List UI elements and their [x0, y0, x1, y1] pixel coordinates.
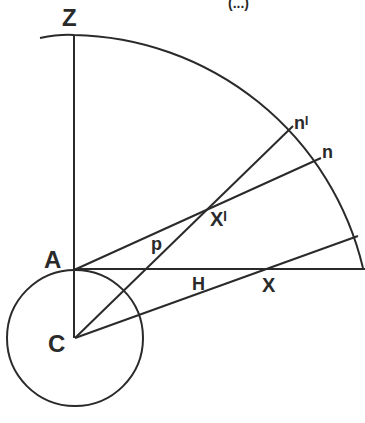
label-H: H: [192, 274, 205, 294]
label-n: n: [322, 142, 333, 162]
label-X: X: [262, 274, 276, 296]
label-p: p: [151, 234, 162, 254]
label-A: A: [44, 246, 61, 273]
geometry-diagram: Z A C H X Xᴵ p n nᴵ (...): [0, 0, 365, 423]
label-C: C: [48, 330, 65, 357]
line-Cn-prime: [75, 126, 293, 338]
label-Z: Z: [62, 4, 77, 31]
label-X-prime: Xᴵ: [210, 208, 227, 230]
outer-arc: [40, 35, 363, 268]
line-An: [74, 158, 321, 270]
header-partial-text: (...): [228, 0, 249, 11]
label-n-prime: nᴵ: [294, 113, 308, 133]
